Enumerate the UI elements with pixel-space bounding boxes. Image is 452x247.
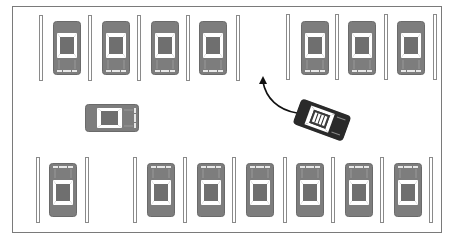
- path-arrow-icon: [0, 0, 452, 247]
